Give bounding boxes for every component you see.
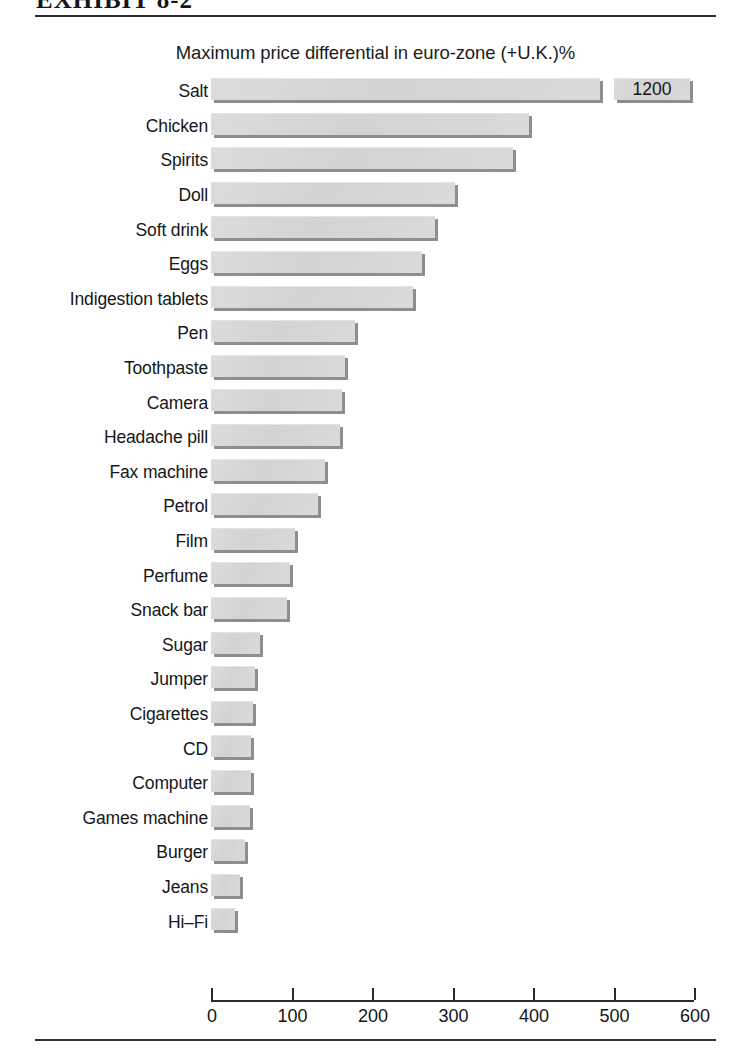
category-label: Perfume (143, 565, 208, 586)
category-label: Computer (132, 773, 208, 794)
bar (211, 770, 251, 792)
category-label: Fax machine (109, 461, 208, 482)
bar-row: Salt1200 (0, 74, 751, 109)
axis-tick-label: 600 (680, 1006, 710, 1027)
category-label: Hi–Fi (168, 911, 208, 932)
bar (211, 459, 325, 481)
bar (211, 597, 287, 619)
bar-row: Computer (0, 766, 751, 801)
category-label: Petrol (163, 496, 208, 517)
axis-tick-label: 100 (277, 1006, 307, 1027)
bar-row: Film (0, 524, 751, 559)
bar-row: Sugar (0, 628, 751, 663)
bar (211, 424, 340, 446)
bar-row: Doll (0, 178, 751, 213)
category-label: Cigarettes (130, 704, 208, 725)
category-label: Film (176, 531, 208, 552)
category-label: Spirits (160, 150, 208, 171)
bar (211, 182, 455, 204)
plot-area: Salt1200ChickenSpiritsDollSoft drinkEggs… (0, 74, 751, 974)
bar-row: Games machine (0, 801, 751, 836)
category-label: Soft drink (136, 219, 208, 240)
bar-row: Hi–Fi (0, 904, 751, 939)
bar-row: Spirits (0, 143, 751, 178)
category-label: Camera (147, 392, 208, 413)
axis-line (211, 1000, 694, 1002)
category-label: Chicken (146, 115, 208, 136)
bar-row: Jeans (0, 870, 751, 905)
bar (211, 839, 245, 861)
bar (211, 389, 342, 411)
bar (211, 320, 355, 342)
bar (211, 735, 251, 757)
bar-row: Burger (0, 835, 751, 870)
category-label: Indigestion tablets (70, 288, 208, 309)
axis-tick (211, 988, 213, 1000)
axis-tick-label: 200 (358, 1006, 388, 1027)
category-label: Games machine (83, 807, 208, 828)
x-axis: 0100200300400500600 (0, 988, 751, 1052)
bar-break-segment: 1200 (614, 78, 690, 100)
bar-row: Jumper (0, 662, 751, 697)
bar (211, 805, 250, 827)
category-label: Sugar (162, 634, 208, 655)
axis-tick (533, 988, 535, 1000)
chart-title: Maximum price differential in euro-zone … (0, 42, 751, 64)
axis-tick (453, 988, 455, 1000)
chart-page: EXHIBIT 8-2 Maximum price differential i… (0, 0, 751, 1052)
bar (211, 666, 255, 688)
category-label: Headache pill (104, 427, 208, 448)
axis-tick-label: 400 (519, 1006, 549, 1027)
bar (211, 528, 295, 550)
bar-row: Headache pill (0, 420, 751, 455)
bar-row: Snack bar (0, 593, 751, 628)
bar-row: Soft drink (0, 212, 751, 247)
bar-row: Petrol (0, 489, 751, 524)
bar (211, 562, 290, 584)
axis-tick-label: 500 (599, 1006, 629, 1027)
bar-row: Pen (0, 316, 751, 351)
bottom-rule (35, 1039, 716, 1041)
bar-value-label: 1200 (614, 79, 690, 100)
category-label: Burger (156, 842, 208, 863)
bar (211, 632, 260, 654)
exhibit-caption: EXHIBIT 8-2 (36, 0, 193, 14)
axis-tick (694, 988, 696, 1000)
axis-tick-label: 300 (438, 1006, 468, 1027)
bar (211, 251, 422, 273)
category-label: Snack bar (131, 600, 208, 621)
axis-tick (614, 988, 616, 1000)
category-label: Pen (177, 323, 208, 344)
bar (211, 874, 240, 896)
category-label: Salt (178, 81, 208, 102)
bar (211, 78, 600, 100)
bar-row: Toothpaste (0, 351, 751, 386)
category-label: Jumper (151, 669, 208, 690)
top-rule (35, 15, 716, 17)
category-label: Jeans (162, 877, 208, 898)
axis-tick (372, 988, 374, 1000)
bar (211, 286, 413, 308)
bar-row: Perfume (0, 558, 751, 593)
bar (211, 355, 345, 377)
category-label: CD (183, 738, 208, 759)
bar (211, 113, 529, 135)
category-label: Toothpaste (124, 358, 208, 379)
bar (211, 147, 513, 169)
axis-tick (292, 988, 294, 1000)
category-label: Eggs (169, 254, 208, 275)
bar-row: Fax machine (0, 455, 751, 490)
bar (211, 701, 253, 723)
category-label: Doll (178, 185, 208, 206)
bar-row: Camera (0, 385, 751, 420)
bar-row: Cigarettes (0, 697, 751, 732)
bar-row: Eggs (0, 247, 751, 282)
axis-tick-label: 0 (207, 1006, 217, 1027)
bar (211, 908, 235, 930)
bar (211, 216, 435, 238)
bar-row: Chicken (0, 109, 751, 144)
bar-row: CD (0, 731, 751, 766)
bar-row: Indigestion tablets (0, 282, 751, 317)
bar (211, 493, 318, 515)
